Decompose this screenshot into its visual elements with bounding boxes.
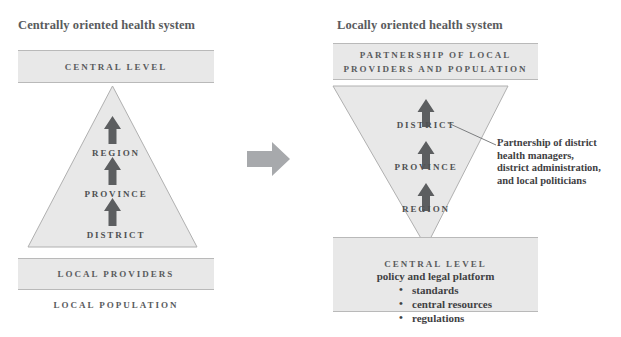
- left-tier-label-district: DISTRICT: [16, 230, 216, 240]
- right-arrow-icon: [245, 140, 293, 178]
- right-panel-title: Locally oriented health system: [337, 18, 503, 33]
- right-central-level-title: CENTRAL LEVEL: [333, 259, 538, 269]
- left-tier-label-province: PROVINCE: [16, 189, 216, 199]
- annotation-line-1: Partnership of district: [497, 137, 601, 150]
- annotation-leader-line: [446, 118, 502, 150]
- annotation-leader-line-stroke: [448, 123, 496, 145]
- left-local-population-caption: LOCAL POPULATION: [18, 300, 214, 310]
- bullet-item: standards: [399, 283, 538, 297]
- right-tier-label-province: PROVINCE: [326, 162, 526, 172]
- left-central-level-label: CENTRAL LEVEL: [65, 60, 167, 74]
- left-local-providers-box: LOCAL PROVIDERS: [18, 258, 214, 290]
- right-central-level-box: CENTRAL LEVEL policy and legal platform …: [333, 237, 538, 312]
- left-pyramid: [18, 84, 214, 250]
- bullet-item: central resources: [399, 297, 538, 311]
- left-tier-label-region: REGION: [16, 148, 216, 158]
- annotation-callout: Partnership of district health managers,…: [497, 137, 601, 187]
- right-tier-label-region: REGION: [326, 204, 526, 214]
- annotation-line-4: and local politicians: [497, 175, 601, 188]
- annotation-line-2: health managers,: [497, 150, 601, 163]
- left-panel-title: Centrally oriented health system: [18, 18, 195, 33]
- right-central-level-subtitle: policy and legal platform: [333, 270, 538, 282]
- right-arrow-shape: [247, 142, 290, 176]
- right-partnership-label-line2: PROVIDERS AND POPULATION: [344, 62, 528, 76]
- left-central-level-box: CENTRAL LEVEL: [18, 50, 214, 83]
- right-partnership-label-line1: PARTNERSHIP OF LOCAL: [360, 48, 512, 62]
- right-central-level-bullets: standards central resources regulations: [385, 283, 538, 325]
- diagram-canvas: Centrally oriented health system CENTRAL…: [0, 0, 621, 337]
- annotation-line-3: district administration,: [497, 162, 601, 175]
- bullet-item: regulations: [399, 311, 538, 325]
- right-partnership-box: PARTNERSHIP OF LOCAL PROVIDERS AND POPUL…: [333, 43, 538, 80]
- left-local-providers-label: LOCAL PROVIDERS: [58, 267, 175, 281]
